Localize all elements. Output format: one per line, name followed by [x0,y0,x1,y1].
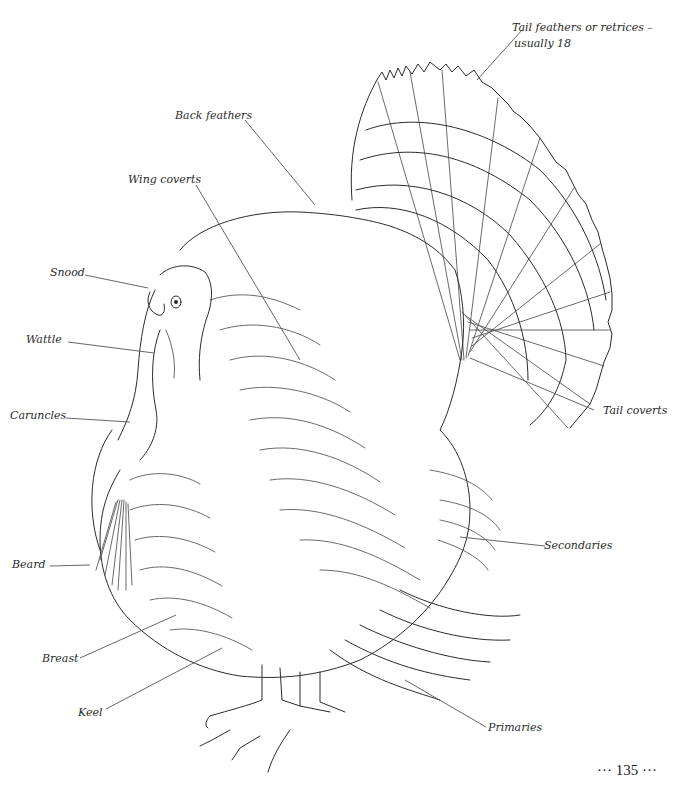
head-neck [96,266,212,590]
label-primaries: Primaries [488,720,542,736]
label-wing-coverts: Wing coverts [128,172,201,188]
label-wattle: Wattle [26,332,62,348]
leader-beard [50,565,90,566]
label-secondaries: Secondaries [544,538,612,554]
label-tail-feathers-line2: usually 18 [512,36,653,52]
leader-lines [50,30,594,727]
label-beard: Beard [12,557,45,573]
page-number: ··· 135 ··· [597,762,657,779]
body [92,212,520,700]
leader-keel [106,648,222,709]
label-back-feathers: Back feathers [175,108,252,124]
leader-wing-coverts [196,185,300,360]
label-breast: Breast [42,651,78,667]
leader-secondaries [460,537,545,546]
label-snood: Snood [50,265,85,281]
leader-primaries [405,680,486,727]
tail-fan [351,62,612,428]
label-tail-feathers: Tail feathers or retrices – usually 18 [512,20,653,52]
leader-caruncles [66,418,130,422]
label-tail-feathers-line1: Tail feathers or retrices – [512,20,653,36]
leader-snood [85,275,148,288]
leader-tail-coverts [470,358,594,410]
label-caruncles: Caruncles [10,408,66,424]
label-keel: Keel [78,705,102,721]
label-tail-coverts: Tail coverts [603,403,667,419]
leader-wattle [68,342,154,353]
turkey-anatomy-figure: Tail feathers or retrices – usually 18 B… [0,0,679,787]
leader-breast [80,615,176,658]
legs-feet [200,665,345,772]
turkey-illustration [0,0,679,787]
leader-back-feathers [245,120,315,205]
